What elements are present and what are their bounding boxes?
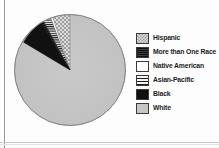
legend-label-black: Black: [153, 90, 170, 98]
legend-item-native-american[interactable]: Native American: [136, 59, 219, 73]
black-swatch-icon: [136, 89, 149, 100]
legend-label-native-american: Native American: [153, 62, 204, 70]
pie-graphic: [14, 13, 126, 126]
page-edge-line-bottom: [0, 142, 219, 143]
pie-svg: [14, 13, 126, 126]
legend-label-more-than-one-race: More than One Race: [153, 48, 216, 56]
native-american-swatch-icon: [136, 61, 149, 72]
white-swatch-icon: [136, 103, 149, 114]
page-edge-line-left: [4, 0, 5, 148]
page-edge-line-bottom-secondary: [0, 144, 219, 145]
legend-item-asian-pacific[interactable]: Asian-Pacific: [136, 73, 219, 87]
legend-item-more-than-one-race[interactable]: More than One Race: [136, 45, 219, 59]
legend-item-white[interactable]: White: [136, 101, 219, 115]
more-than-one-race-swatch-icon: [136, 47, 149, 58]
legend-item-black[interactable]: Black: [136, 87, 219, 101]
hispanic-swatch-icon: [136, 33, 149, 44]
asian-pacific-swatch-icon: [136, 75, 149, 86]
legend-label-asian-pacific: Asian-Pacific: [153, 76, 194, 84]
legend-label-hispanic: Hispanic: [153, 34, 180, 42]
pie-chart-figure: Hispanic More than One Race Native Ameri…: [0, 0, 219, 148]
legend-item-hispanic[interactable]: Hispanic: [136, 31, 219, 45]
legend-label-white: White: [153, 104, 171, 112]
chart-legend: Hispanic More than One Race Native Ameri…: [136, 31, 219, 115]
